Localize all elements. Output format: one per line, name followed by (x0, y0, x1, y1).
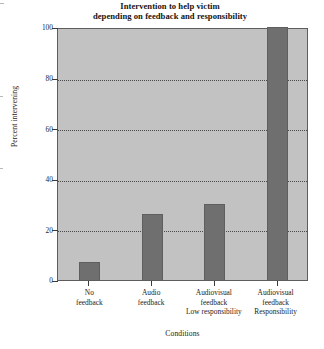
x-category-label: AudiovisualfeedbackResponsibility (239, 288, 313, 317)
y-tick-label: 0 (30, 277, 53, 284)
y-tick-label: 40 (30, 176, 53, 183)
x-category-label-line: feedback (239, 298, 313, 308)
page-edge-artifact (0, 3, 4, 4)
x-tick-mark (214, 281, 215, 286)
chart-title-line-1: Intervention to help victim (40, 1, 300, 11)
chart-figure: Intervention to help victim depending on… (0, 0, 324, 349)
y-tick-label: 60 (30, 126, 53, 133)
y-tick-mark (52, 28, 58, 29)
y-tick-mark (52, 129, 58, 130)
y-tick-mark (52, 281, 58, 282)
page-edge-artifact (0, 168, 3, 169)
page-edge-artifact (0, 96, 3, 97)
y-tick-label: 80 (30, 75, 53, 82)
x-tick-mark (277, 281, 278, 286)
y-tick-mark (52, 79, 58, 80)
y-axis-label: Percent intervening (10, 62, 19, 172)
x-axis-label: Conditions (57, 329, 308, 338)
bar (267, 27, 288, 280)
chart-title: Intervention to help victim depending on… (40, 1, 300, 22)
bar (204, 204, 225, 280)
x-tick-mark (88, 281, 89, 286)
bar (142, 214, 163, 280)
plot-area (57, 28, 308, 281)
y-tick-mark (52, 180, 58, 181)
x-category-label-line: Responsibility (239, 307, 313, 317)
y-tick-label: 100 (30, 24, 53, 31)
chart-title-line-2: depending on feedback and responsibility (40, 11, 300, 21)
x-category-label-line: Audiovisual (239, 288, 313, 298)
bar (79, 262, 100, 280)
y-tick-mark (52, 230, 58, 231)
x-tick-mark (151, 281, 152, 286)
y-tick-label: 20 (30, 227, 53, 234)
